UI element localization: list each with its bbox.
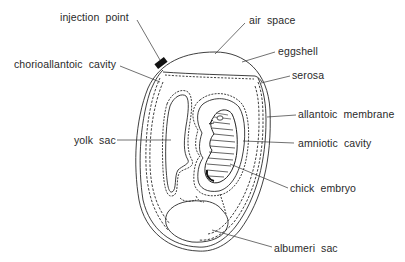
label-eggshell: eggshell: [278, 45, 318, 57]
air-space-membrane: [163, 72, 262, 82]
albumen-stalk: [196, 194, 226, 214]
egg-diagram: [0, 0, 405, 262]
label-serosa: serosa: [292, 69, 324, 81]
chick-embryo: [205, 110, 237, 183]
injection-marker: [154, 57, 167, 69]
albumen-sac-outline: [166, 201, 228, 242]
label-albumen-sac: albumeri sac: [274, 242, 338, 254]
eggshell-outline: [136, 52, 270, 251]
leader-lines: [117, 20, 296, 247]
label-yolk-sac: yolk sac: [74, 134, 116, 146]
label-injection-point: injection point: [60, 11, 129, 23]
yolk-sac-inner: [166, 95, 189, 192]
label-allantoic-membrane: allantoic membrane: [298, 108, 394, 120]
left-serosa-layer: [146, 78, 168, 230]
label-amniotic-cavity: amniotic cavity: [298, 137, 371, 149]
yolk-stalk: [180, 198, 196, 201]
label-chick-embryo: chick embryo: [290, 182, 356, 194]
label-chorioallantoic-cavity: chorioallantoic cavity: [14, 58, 116, 70]
label-air-space: air space: [249, 14, 296, 26]
